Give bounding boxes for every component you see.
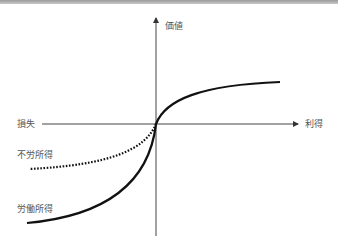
unearned-income-curve: [29, 124, 156, 169]
x-axis-negative-label: 損失: [17, 119, 35, 129]
x-axis-positive-label: 利得: [305, 119, 323, 129]
gain-curve: [156, 82, 280, 124]
unearned-income-label: 不労所得: [17, 150, 53, 160]
y-axis-label: 価値: [165, 21, 183, 31]
earned-income-label: 労働所得: [17, 204, 53, 214]
